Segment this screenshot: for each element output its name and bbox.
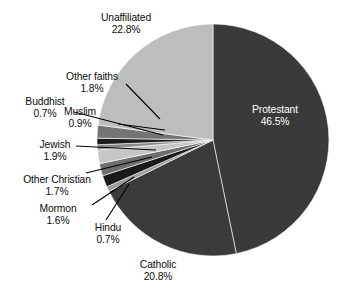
slice-label-other-faiths-name: Other faiths [66, 71, 118, 82]
slice-label-jewish-name: Jewish [40, 139, 71, 150]
slice-label-muslim-name: Muslim [64, 106, 96, 117]
slice-label-other-christian: Other Christian 1.7% [2, 174, 112, 197]
slice-label-protestant-value: 46.5% [232, 116, 318, 128]
slice-label-hindu-value: 0.7% [83, 234, 133, 246]
slice-label-hindu: Hindu 0.7% [83, 222, 133, 245]
slice-label-other-christian-name: Other Christian [23, 174, 91, 185]
slice-label-other-faiths: Other faiths 1.8% [46, 71, 138, 94]
slice-label-unaffiliated-name: Unaffiliated [101, 12, 151, 23]
slice-label-unaffiliated: Unaffiliated 22.8% [72, 12, 180, 35]
slice-label-jewish: Jewish 1.9% [22, 139, 88, 162]
slice-label-unaffiliated-value: 22.8% [72, 24, 180, 36]
slice-label-hindu-name: Hindu [95, 222, 121, 233]
pie-slice-protestant [213, 24, 329, 254]
slice-label-muslim-value: 0.9% [53, 118, 107, 130]
pie-chart-figure: Unaffiliated 22.8% Other faiths 1.8% Bud… [0, 0, 347, 296]
slice-label-mormon-name: Mormon [39, 203, 76, 214]
slice-label-catholic-value: 20.8% [115, 271, 201, 283]
slice-label-catholic-name: Catholic [140, 259, 176, 270]
slice-label-protestant-name: Protestant [252, 104, 298, 115]
slice-label-catholic: Catholic 20.8% [115, 259, 201, 282]
slice-label-other-christian-value: 1.7% [2, 186, 112, 198]
slice-label-jewish-value: 1.9% [22, 151, 88, 163]
slice-label-muslim: Muslim 0.9% [53, 106, 107, 129]
slice-label-other-faiths-value: 1.8% [46, 83, 138, 95]
slice-label-protestant: Protestant 46.5% [232, 104, 318, 127]
